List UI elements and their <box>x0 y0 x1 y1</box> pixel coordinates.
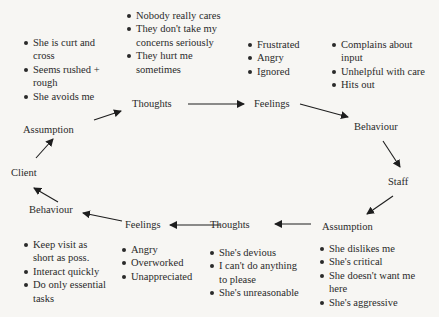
client-thoughts-list: Nobody really cares They don't take my c… <box>125 9 221 76</box>
node-client-thoughts: Thoughts <box>132 99 172 110</box>
node-staff: Staff <box>388 177 408 188</box>
node-client-feelings: Feelings <box>254 99 290 110</box>
list-item: They don't take my <box>125 22 221 35</box>
staff-feelings-list: Angry Overworked Unappreciated <box>120 243 192 283</box>
staff-thoughts-list: She's devious I can't do anything to ple… <box>208 246 299 300</box>
list-item: rough <box>22 76 100 89</box>
list-item: She's aggressive <box>318 296 415 309</box>
node-staff-assumption: Assumption <box>322 222 373 233</box>
list-item: sometimes <box>125 63 221 76</box>
list-item: Keep visit as <box>22 238 106 251</box>
list-item: Hits out <box>330 78 425 91</box>
list-item: I can't do anything <box>208 259 299 272</box>
list-item: to please <box>208 273 299 286</box>
staff-behaviour-list: Keep visit as short as poss. Interact qu… <box>22 238 106 305</box>
list-item: Nobody really cares <box>125 9 221 22</box>
list-item: She dislikes me <box>318 242 415 255</box>
list-item: Interact quickly <box>22 265 106 278</box>
list-item: She's devious <box>208 246 299 259</box>
node-client: Client <box>11 168 37 179</box>
list-item: Frustrated <box>246 38 300 51</box>
list-item: Ignored <box>246 65 300 78</box>
staff-assumption-list: She dislikes me She's critical She doesn… <box>318 242 415 309</box>
node-staff-thoughts: Thoughts <box>210 220 250 231</box>
list-item: Do only essential <box>22 278 106 291</box>
list-item: She is curt and <box>22 36 100 49</box>
node-staff-feelings: Feelings <box>125 220 161 231</box>
list-item: short as poss. <box>22 251 106 264</box>
arrow-client-to-assumption <box>36 139 53 158</box>
node-staff-behaviour: Behaviour <box>29 205 73 216</box>
client-feelings-list: Frustrated Angry Ignored <box>246 38 300 78</box>
list-item: She's critical <box>318 255 415 268</box>
list-item: input <box>330 51 425 64</box>
arrow-staff-to-assumption <box>367 196 393 214</box>
list-item: cross <box>22 49 100 62</box>
arrow-feelings-to-behaviour-bottom <box>83 213 122 221</box>
list-item: Complains about <box>330 38 425 51</box>
client-assumption-list: She is curt and cross Seems rushed + rou… <box>22 36 100 103</box>
arrow-assumption-to-thoughts <box>94 111 121 120</box>
node-client-behaviour: Behaviour <box>354 122 398 133</box>
list-item: Unhelpful with care <box>330 65 425 78</box>
node-client-assumption: Assumption <box>23 125 74 136</box>
arrow-behaviour-to-client <box>34 188 58 202</box>
list-item: concerns seriously <box>125 36 221 49</box>
list-item: here <box>318 282 415 295</box>
client-behaviour-list: Complains about input Unhelpful with car… <box>330 38 425 92</box>
list-item: Angry <box>246 51 300 64</box>
list-item: Overworked <box>120 256 192 269</box>
list-item: They hurt me <box>125 49 221 62</box>
arrow-feelings-to-behaviour <box>300 104 348 117</box>
list-item: She doesn't want me <box>318 269 415 282</box>
list-item: Angry <box>120 243 192 256</box>
list-item: Seems rushed + <box>22 63 100 76</box>
list-item: She avoids me <box>22 90 100 103</box>
list-item: Unappreciated <box>120 270 192 283</box>
list-item: She's unreasonable <box>208 286 299 299</box>
arrow-behaviour-to-staff <box>383 141 400 167</box>
list-item: tasks <box>22 292 106 305</box>
